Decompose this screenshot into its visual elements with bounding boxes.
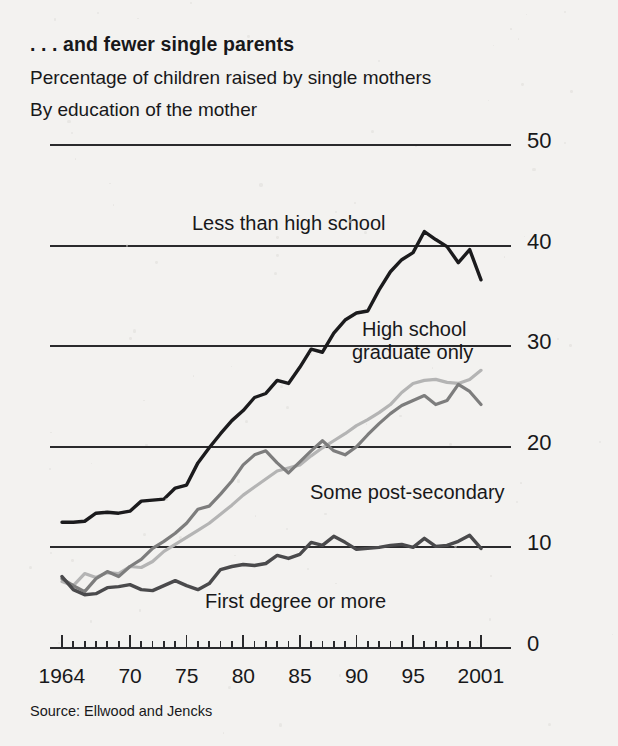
- x-axis-label-1990: 90: [345, 665, 368, 686]
- paper-speckle: [310, 353, 311, 354]
- source-note: Source: Ellwood and Jencks: [30, 703, 212, 719]
- paper-speckle: [307, 568, 309, 570]
- paper-speckle: [237, 479, 240, 482]
- paper-speckle: [129, 337, 132, 340]
- paper-speckle: [524, 236, 525, 237]
- series-line-high-school-graduate-only: [62, 370, 481, 585]
- paper-speckle: [521, 83, 524, 86]
- x-axis-label-1970: 70: [118, 665, 141, 686]
- series-label-first-degree-or-more: First degree or more: [205, 590, 386, 613]
- x-axis-label-1980: 80: [232, 665, 255, 686]
- paper-speckle: [339, 674, 341, 676]
- series-line-less-than-high-school: [62, 232, 481, 523]
- paper-speckle: [569, 344, 572, 347]
- paper-speckle: [179, 536, 182, 539]
- paper-speckle: [103, 510, 104, 511]
- paper-speckle: [546, 242, 547, 243]
- x-axis-label-2001: 2001: [458, 665, 505, 686]
- paper-speckle: [276, 236, 278, 238]
- paper-speckle: [247, 35, 250, 38]
- x-axis-label-1964: 1964: [39, 665, 86, 686]
- paper-speckle: [564, 11, 566, 13]
- paper-speckle: [255, 515, 256, 516]
- paper-speckle: [113, 204, 115, 206]
- series-line-first-degree-or-more: [62, 535, 481, 594]
- x-axis-label-1995: 95: [402, 665, 425, 686]
- paper-speckle: [532, 168, 535, 171]
- x-axis-label-1985: 85: [288, 665, 311, 686]
- paper-speckle: [324, 513, 327, 516]
- paper-speckle: [67, 120, 70, 123]
- paper-speckle: [490, 575, 492, 577]
- paper-speckle: [526, 14, 527, 15]
- line-chart-plot: [0, 0, 618, 746]
- paper-speckle: [349, 219, 352, 222]
- series-label-some-post-secondary: Some post-secondary: [310, 481, 505, 504]
- paper-speckle: [278, 228, 280, 230]
- paper-speckle: [354, 202, 356, 204]
- y-axis-label-50: 50: [527, 130, 551, 152]
- paper-speckle: [564, 142, 566, 144]
- paper-speckle: [71, 559, 74, 562]
- paper-speckle: [279, 723, 282, 726]
- y-axis-label-10: 10: [527, 532, 551, 554]
- y-axis-label-30: 30: [527, 331, 551, 353]
- y-axis-label-20: 20: [527, 432, 551, 454]
- paper-speckle: [366, 423, 367, 424]
- paper-speckle: [378, 60, 380, 62]
- x-axis-label-1975: 75: [175, 665, 198, 686]
- paper-speckle: [126, 244, 128, 246]
- paper-speckle: [557, 338, 559, 340]
- paper-speckle: [29, 566, 32, 569]
- paper-speckle: [135, 111, 137, 113]
- y-axis-label-0: 0: [527, 633, 539, 655]
- y-axis-label-40: 40: [527, 231, 551, 253]
- paper-speckle: [245, 420, 248, 423]
- paper-speckle: [570, 90, 573, 93]
- chart-figure: . . . and fewer single parents Percentag…: [0, 0, 618, 746]
- paper-speckle: [193, 375, 194, 376]
- paper-speckle: [510, 28, 511, 29]
- series-label-high-school-graduate-only-line2: graduate only: [352, 341, 473, 364]
- paper-speckle: [432, 367, 434, 369]
- paper-speckle: [143, 533, 146, 536]
- paper-speckle: [286, 528, 288, 530]
- series-label-high-school-graduate-only-line1: High school: [362, 318, 467, 341]
- paper-speckle: [90, 620, 92, 622]
- paper-speckle: [259, 183, 262, 186]
- paper-speckle: [58, 642, 60, 644]
- series-label-less-than-high-school: Less than high school: [192, 212, 385, 235]
- paper-speckle: [91, 463, 92, 464]
- paper-speckle: [489, 618, 492, 621]
